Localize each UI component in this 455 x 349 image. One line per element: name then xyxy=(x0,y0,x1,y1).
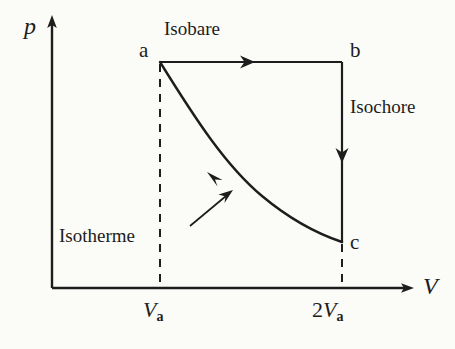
point-label-c: c xyxy=(350,232,359,253)
point-label-a: a xyxy=(139,40,148,61)
isotherm-leader-line xyxy=(190,196,226,226)
isotherm-curve-path xyxy=(160,62,342,242)
v-axis-label: V xyxy=(423,274,438,298)
diagram-canvas xyxy=(0,0,455,349)
tick-2va-subscript: a xyxy=(336,309,343,324)
pv-diagram-figure: p V a b c Isobare Isochore Isotherme Va … xyxy=(0,0,455,349)
isotherm-label: Isotherme xyxy=(59,226,135,245)
tick-2va-symbol: V xyxy=(323,297,336,322)
isobar-label: Isobare xyxy=(164,19,220,38)
tick-label-va: Va xyxy=(143,299,163,324)
tick-va-symbol: V xyxy=(143,297,156,322)
tick-label-2va: 2Va xyxy=(312,299,343,324)
point-label-b: b xyxy=(350,40,361,61)
isotherm-direction-arrow-icon xyxy=(207,172,223,187)
tick-va-subscript: a xyxy=(156,309,163,324)
p-axis-label: p xyxy=(24,14,36,38)
tick-2va-prefix: 2 xyxy=(312,297,323,322)
isochore-label: Isochore xyxy=(350,97,415,116)
